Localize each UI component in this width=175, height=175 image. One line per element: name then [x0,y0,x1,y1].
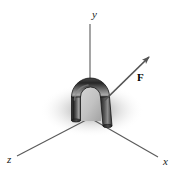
tube-left-endcap [72,119,81,122]
tube-right-endcap [103,124,112,127]
axis-label-y: y [91,8,97,20]
axis-label-z: z [6,153,12,165]
figure-container: y x z F [0,0,175,175]
axis-label-x: x [162,155,168,167]
tube-left-leg [72,97,81,121]
physics-diagram: y x z F [0,0,175,175]
tube-inner-face [80,86,101,121]
bent-tube-object [72,78,113,128]
tube-right-leg [101,97,113,126]
force-vector-label: F [137,71,144,83]
